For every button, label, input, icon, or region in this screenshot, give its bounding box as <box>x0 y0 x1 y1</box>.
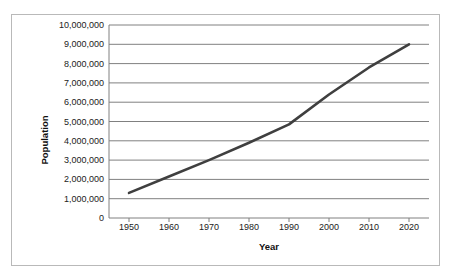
x-tick-label: 1970 <box>199 223 219 232</box>
x-tick-label: 2010 <box>359 223 379 232</box>
y-axis-tick-labels: 01,000,0002,000,0003,000,0004,000,0005,0… <box>12 25 104 218</box>
y-tick-label: 4,000,000 <box>64 136 104 145</box>
y-tick-label: 10,000,000 <box>59 21 104 30</box>
y-tick-label: 9,000,000 <box>64 40 104 49</box>
y-tick-label: 7,000,000 <box>64 78 104 87</box>
x-tick-label: 2000 <box>319 223 339 232</box>
chart-frame: Population 01,000,0002,000,0003,000,0004… <box>11 14 440 266</box>
data-series-line <box>109 25 429 218</box>
y-tick-label: 1,000,000 <box>64 194 104 203</box>
x-tick-label: 1980 <box>239 223 259 232</box>
x-tick-label: 1950 <box>119 223 139 232</box>
x-axis-title: Year <box>109 241 429 252</box>
x-axis-tick-labels: 19501960197019801990200020102020 <box>109 223 429 237</box>
y-tick-label: 8,000,000 <box>64 59 104 68</box>
y-tick-label: 3,000,000 <box>64 156 104 165</box>
x-tick-label: 1990 <box>279 223 299 232</box>
y-tick-label: 6,000,000 <box>64 98 104 107</box>
x-tick-label: 1960 <box>159 223 179 232</box>
y-tick-label: 2,000,000 <box>64 175 104 184</box>
y-tick-label: 0 <box>99 214 104 223</box>
plot-area <box>109 25 429 218</box>
x-tick-label: 2020 <box>399 223 419 232</box>
y-tick-label: 5,000,000 <box>64 117 104 126</box>
